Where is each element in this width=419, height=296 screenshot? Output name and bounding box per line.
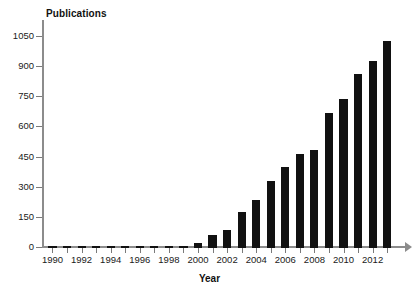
- bar: [354, 74, 362, 248]
- bar: [252, 200, 260, 248]
- bar: [223, 230, 231, 248]
- x-tick-mark: [52, 248, 53, 253]
- x-tick-mark: [256, 248, 257, 253]
- x-tick-mark: [373, 248, 374, 253]
- x-tick-mark: [227, 248, 228, 253]
- y-tick-label: 450: [0, 152, 34, 162]
- bar: [383, 41, 391, 248]
- y-tick-label: 0: [0, 242, 34, 252]
- x-tick-label: 2012: [353, 255, 393, 265]
- x-tick-mark: [111, 248, 112, 253]
- x-tick-mark: [285, 248, 286, 253]
- bar: [281, 167, 289, 248]
- y-tick-label: 900: [0, 61, 34, 71]
- bar: [310, 150, 318, 248]
- bar: [339, 99, 347, 248]
- bar: [296, 154, 304, 248]
- bar: [267, 181, 275, 248]
- x-tick-mark: [183, 248, 184, 253]
- x-tick-mark: [198, 248, 199, 253]
- y-tick-label: 150: [0, 212, 34, 222]
- y-axis-title: Publications: [46, 8, 107, 19]
- x-tick-mark: [96, 248, 97, 253]
- publications-bar-chart: Publications 01503004506007509001050 199…: [0, 0, 419, 296]
- x-tick-mark: [271, 248, 272, 253]
- x-tick-mark: [67, 248, 68, 253]
- plot-area: [42, 36, 408, 248]
- x-tick-mark: [169, 248, 170, 253]
- bar: [325, 113, 333, 248]
- x-tick-mark: [329, 248, 330, 253]
- bar: [208, 235, 216, 248]
- x-tick-mark: [358, 248, 359, 253]
- x-tick-mark: [300, 248, 301, 253]
- y-tick-label: 600: [0, 121, 34, 131]
- x-tick-mark: [242, 248, 243, 253]
- x-tick-mark: [154, 248, 155, 253]
- x-axis-title: Year: [0, 273, 419, 284]
- y-tick-label: 300: [0, 182, 34, 192]
- x-tick-mark: [213, 248, 214, 253]
- x-tick-mark: [344, 248, 345, 253]
- x-tick-mark: [125, 248, 126, 253]
- y-tick-label: 1050: [0, 31, 34, 41]
- x-tick-mark: [140, 248, 141, 253]
- y-tick-label: 750: [0, 91, 34, 101]
- x-tick-mark: [387, 248, 388, 253]
- x-tick-mark: [82, 248, 83, 253]
- bar: [369, 61, 377, 248]
- x-tick-mark: [314, 248, 315, 253]
- bar: [238, 212, 246, 248]
